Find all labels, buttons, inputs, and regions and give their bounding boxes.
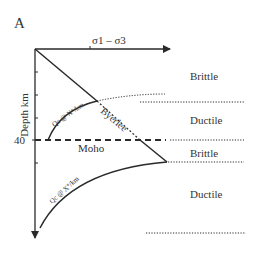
lower-curve-label: Qc @ X°/km bbox=[48, 175, 81, 206]
panel-label: A bbox=[14, 15, 25, 31]
strength-envelope-diagram: A σ1 – σ3 Depth km 40 Qc @ X°/km Moho By… bbox=[0, 0, 258, 255]
zone-label-ductile-crust: Ductile bbox=[190, 114, 222, 126]
zone-label-brittle-crust: Brittle bbox=[190, 70, 218, 82]
upper-curve-label: Qc @ X°/km bbox=[51, 101, 86, 129]
zone-label-brittle-mantle: Brittle bbox=[190, 147, 218, 159]
byerlee-label: Byerlee bbox=[99, 105, 130, 134]
byerlee-line-solid bbox=[35, 49, 97, 101]
x-axis-label: σ1 – σ3 bbox=[92, 34, 126, 46]
moho-label: Moho bbox=[78, 142, 105, 154]
zone-label-ductile-mantle: Ductile bbox=[190, 188, 222, 200]
ductile-curve-dotted bbox=[97, 94, 165, 101]
byerlee-line-mantle bbox=[140, 140, 167, 162]
y-axis-label: Depth km bbox=[18, 93, 30, 137]
depth-40-label: 40 bbox=[14, 134, 26, 146]
